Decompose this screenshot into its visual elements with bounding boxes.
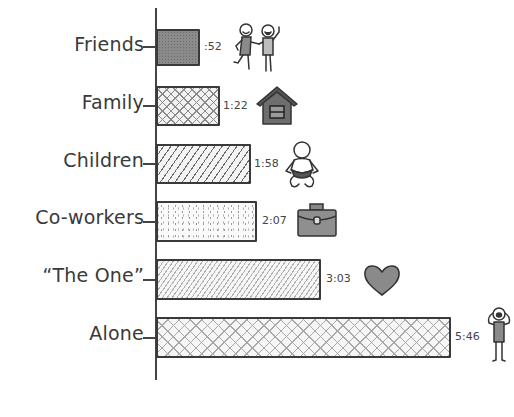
bar-the-one [156,259,321,300]
value-label-the-one: 3:03 [326,272,351,285]
category-label-family: Family [82,91,144,113]
axis-tick [143,279,155,281]
briefcase-icon [296,202,338,238]
category-label-alone: Alone [89,322,144,344]
two-friends-icon [232,20,292,78]
bar-friends [156,29,200,66]
house-icon [254,84,300,126]
axis-tick [143,105,155,107]
value-label-co-workers: 2:07 [262,214,287,227]
category-label-the-one: “The One” [42,264,144,286]
value-label-alone: 5:46 [455,330,480,343]
bar-children [156,144,251,184]
heart-icon [362,262,402,298]
value-label-children: 1:58 [254,157,279,170]
value-label-friends: :52 [204,40,222,53]
baby-icon [284,140,320,192]
axis-tick [143,221,155,223]
axis-tick [143,163,155,165]
bar-co-workers [156,201,257,242]
lone-person-icon [484,304,514,366]
axis-tick [143,46,155,48]
category-label-co-workers: Co-workers [35,206,144,228]
category-label-friends: Friends [74,33,144,55]
bar-alone [156,317,451,358]
bar-family [156,86,220,126]
horizontal-bar-chart: Friends :52 Family 1:22 Children [0,0,514,417]
axis-tick [143,337,155,339]
value-label-family: 1:22 [223,99,248,112]
category-label-children: Children [63,149,144,171]
